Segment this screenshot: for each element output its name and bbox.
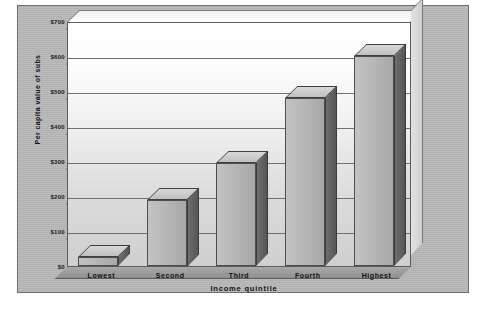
bar-front-face bbox=[354, 56, 394, 266]
bar-side-face bbox=[256, 150, 268, 266]
y-axis-ticks: $0$100$200$300$400$500$600$700 bbox=[24, 22, 65, 267]
bar bbox=[354, 56, 394, 266]
bar bbox=[285, 98, 325, 266]
x-axis-category-label: Third bbox=[229, 272, 250, 279]
plot-back-wall-right bbox=[411, 0, 423, 255]
x-axis-title: Income quintile bbox=[18, 284, 470, 293]
x-axis-category-label: Fourth bbox=[295, 272, 321, 279]
y-axis-tick-label: $200 bbox=[50, 194, 65, 200]
y-axis-tick-label: $500 bbox=[50, 89, 65, 95]
bar-side-face bbox=[325, 86, 337, 266]
bar bbox=[216, 163, 256, 266]
x-axis-category-label: Highest bbox=[362, 272, 392, 279]
plot-back-wall-top bbox=[67, 10, 423, 22]
bar bbox=[78, 257, 118, 266]
bar-side-face bbox=[394, 44, 406, 266]
y-axis-tick-label: $700 bbox=[50, 19, 65, 25]
chart-screenshot: Per capita value of subs $0$100$200$300$… bbox=[0, 0, 487, 312]
bar-side-face bbox=[187, 187, 199, 266]
bar-front-face bbox=[78, 257, 118, 266]
y-axis-tick-label: $400 bbox=[50, 124, 65, 130]
y-axis-tick-label: $100 bbox=[50, 229, 65, 235]
chart-panel: Per capita value of subs $0$100$200$300$… bbox=[17, 5, 469, 293]
bar bbox=[147, 200, 187, 267]
plot-area bbox=[67, 22, 411, 267]
y-axis-tick-label: $600 bbox=[50, 54, 65, 60]
chart-area: Per capita value of subs $0$100$200$300$… bbox=[18, 6, 470, 294]
bar-front-face bbox=[285, 98, 325, 266]
y-axis-tick-label: $300 bbox=[50, 159, 65, 165]
x-axis-category-label: Lowest bbox=[88, 272, 116, 279]
bar-front-face bbox=[216, 163, 256, 266]
x-axis-category-label: Second bbox=[156, 272, 185, 279]
bar-front-face bbox=[147, 200, 187, 267]
